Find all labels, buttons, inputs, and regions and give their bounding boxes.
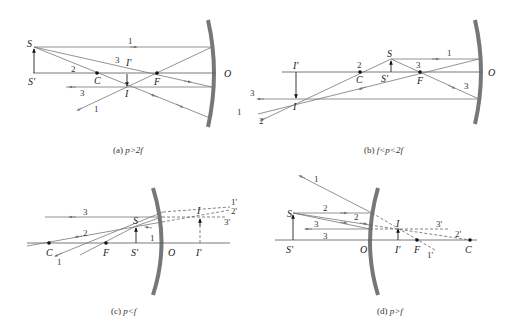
label-I: I bbox=[395, 218, 400, 229]
virtual-ray-number: 3' bbox=[436, 219, 443, 229]
label-O: O bbox=[360, 244, 367, 255]
ray-1-reflected bbox=[258, 59, 479, 114]
convex-mirror bbox=[370, 188, 378, 295]
label-I-prime: I' bbox=[292, 60, 299, 71]
ray-number: 2 bbox=[354, 212, 359, 222]
ray-number: 1 bbox=[447, 48, 452, 58]
panel-d: S S' C F O I I' 1 2 2 3 3 3' 2' 1' (d) p… bbox=[275, 174, 477, 316]
ray-number: 3 bbox=[314, 219, 319, 229]
label-F: F bbox=[416, 75, 424, 86]
ray-number: 1 bbox=[150, 233, 155, 243]
focal-point bbox=[415, 238, 419, 242]
ray-number: 2 bbox=[323, 203, 328, 213]
label-S: S bbox=[287, 208, 292, 219]
ray-number: 3 bbox=[323, 231, 328, 241]
focal-point bbox=[155, 71, 159, 75]
ray-2 bbox=[27, 222, 162, 246]
panel-c: S S' C F O I I' 3 2 1 1 1' 2' 3' (c) p<f bbox=[27, 188, 238, 316]
label-I: I bbox=[196, 205, 201, 216]
ray-2 bbox=[34, 47, 210, 118]
ray-number: 2 bbox=[71, 64, 76, 74]
ray-number: 1 bbox=[314, 174, 319, 184]
ray-number: 2 bbox=[259, 116, 264, 126]
ray-number: 3 bbox=[416, 60, 421, 70]
ray-1-reflected bbox=[300, 176, 372, 213]
label-O: O bbox=[224, 68, 231, 79]
ray-3-incident bbox=[391, 59, 479, 99]
ray-number: 3 bbox=[115, 55, 120, 65]
virtual-ray-number: 1' bbox=[427, 250, 434, 260]
ray-number: 1 bbox=[57, 257, 62, 267]
panel-b: S S' C F O I I' 1 2 3 3 3 1 2 (b) f<p<2f bbox=[237, 20, 495, 155]
mirror-ray-diagrams: S S' C F O I I' 1 2 3 3 1 (a) p>2f S S' bbox=[0, 0, 514, 331]
caption-c: (c) p<f bbox=[111, 306, 138, 316]
label-S: S bbox=[27, 38, 32, 49]
label-C: C bbox=[465, 244, 472, 255]
ray-number: 1 bbox=[237, 107, 242, 117]
concave-mirror bbox=[208, 20, 214, 127]
caption-d: (d) p>f bbox=[377, 306, 404, 316]
center-point bbox=[468, 238, 472, 242]
virtual-ray-number: 2' bbox=[231, 206, 238, 216]
ray-2 bbox=[262, 59, 391, 120]
virtual-ray-2 bbox=[162, 210, 230, 222]
label-S-prime: S' bbox=[381, 73, 389, 84]
ray-number: 3 bbox=[250, 88, 255, 98]
ray-number: 2 bbox=[357, 60, 362, 70]
label-F: F bbox=[153, 76, 161, 87]
center-point bbox=[47, 241, 51, 245]
label-S-prime: S' bbox=[28, 76, 36, 87]
ray-number: 3 bbox=[83, 207, 88, 217]
label-S: S bbox=[387, 48, 392, 59]
label-I-prime: I' bbox=[394, 244, 401, 255]
label-F: F bbox=[413, 244, 421, 255]
label-C: C bbox=[94, 75, 101, 86]
label-O: O bbox=[488, 67, 495, 78]
label-I-prime: I' bbox=[195, 247, 202, 258]
label-I-prime: I' bbox=[125, 57, 132, 68]
label-S: S bbox=[133, 215, 138, 226]
label-S-prime: S' bbox=[131, 247, 139, 258]
virtual-ray-number: 3' bbox=[224, 217, 231, 227]
virtual-ray-number: 2' bbox=[455, 229, 462, 239]
label-C: C bbox=[356, 74, 363, 85]
virtual-ray-1 bbox=[372, 213, 435, 250]
caption-a: (a) p>2f bbox=[113, 145, 144, 155]
ray-number: 1 bbox=[128, 36, 133, 46]
ray-number: 1 bbox=[94, 104, 99, 114]
label-S-prime: S' bbox=[286, 244, 294, 255]
label-O: O bbox=[168, 247, 175, 258]
label-F: F bbox=[102, 247, 110, 258]
label-C: C bbox=[46, 247, 53, 258]
focal-point bbox=[418, 70, 422, 74]
label-I: I bbox=[292, 101, 297, 112]
ray-number: 2 bbox=[83, 228, 88, 238]
panel-a: S S' C F O I I' 1 2 3 3 1 (a) p>2f bbox=[27, 20, 231, 155]
focal-point bbox=[104, 241, 108, 245]
ray-number: 3 bbox=[464, 81, 469, 91]
caption-b: (b) f<p<2f bbox=[364, 145, 404, 155]
ray-number: 3 bbox=[80, 88, 85, 98]
label-I: I bbox=[124, 88, 129, 99]
